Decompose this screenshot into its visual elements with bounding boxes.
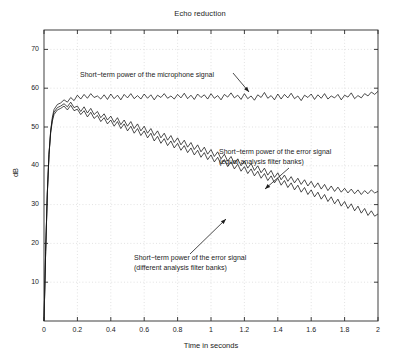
x-tick-label: 0 [29,326,59,333]
x-tick-label: 0.6 [129,326,159,333]
plot-canvas [0,0,400,360]
annotation-line: (different analysis filter banks) [134,263,246,273]
annotation-line: (equal analysis filter banks) [219,157,331,167]
y-tick-label: 30 [13,200,39,207]
x-tick-label: 0.4 [96,326,126,333]
y-tick-label: 70 [13,45,39,52]
annotation-error-equal: Short−term power of the error signal(equ… [219,147,331,166]
y-axis-label: dB [11,153,20,193]
x-tick-label: 2 [363,326,393,333]
annotation-line: Short−term power of the error signal [219,147,331,157]
x-tick-label: 1 [196,326,226,333]
y-tick-label: 60 [13,84,39,91]
annotation-line: Short−term power of the error signal [134,253,246,263]
x-tick-label: 1.2 [229,326,259,333]
annotation-microphone: Short−term power of the microphone signa… [80,70,214,80]
x-tick-label: 0.2 [62,326,92,333]
y-tick-label: 20 [13,239,39,246]
x-tick-label: 1.8 [330,326,360,333]
annotation-arrow-line [190,219,226,254]
y-tick-label: 50 [13,123,39,130]
x-tick-label: 1.6 [296,326,326,333]
x-tick-label: 0.8 [163,326,193,333]
y-tick-label: 10 [13,278,39,285]
annotation-line: Short−term power of the microphone signa… [80,70,214,80]
chart-title: Echo reduction [0,9,400,18]
series-line-1 [44,102,378,321]
x-axis-label: Time in seconds [44,341,378,350]
chart-figure: Echo reduction Time in seconds dB 102030… [0,0,400,360]
y-tick-label: 40 [13,161,39,168]
x-tick-label: 1.4 [263,326,293,333]
annotation-error-different: Short−term power of the error signal(dif… [134,253,246,272]
